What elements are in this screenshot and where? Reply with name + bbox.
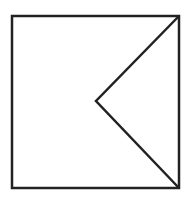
diagram-canvas (0, 0, 193, 208)
chevron-left-shape (96, 16, 179, 188)
